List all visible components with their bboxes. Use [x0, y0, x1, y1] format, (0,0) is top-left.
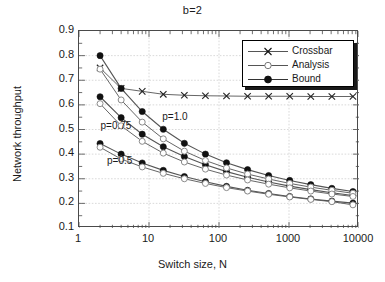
analysis-marker-icon: [247, 59, 289, 72]
y-tick-label: 0.4: [30, 147, 74, 158]
x-tick-label: 1: [75, 233, 81, 244]
figure-network-throughput: b=2 Network throughput Switch size, N 0.…: [0, 0, 385, 282]
x-tick-label: 1000: [276, 233, 300, 244]
legend-item-analysis: Analysis: [247, 58, 349, 72]
y-tick-label: 0.8: [30, 49, 74, 60]
x-tick-label: 100: [209, 233, 227, 244]
y-tick-label: 0.7: [30, 73, 74, 84]
x-tick-label: 10: [142, 233, 154, 244]
series-bound-p0.75: [97, 94, 356, 199]
legend-item-crossbar: Crossbar: [247, 44, 349, 58]
crossbar-marker-icon: [247, 45, 289, 58]
y-tick-label: 0.6: [30, 98, 74, 109]
legend-box: Crossbar Analysis Bound: [242, 40, 354, 87]
legend-label-crossbar: Crossbar: [289, 46, 333, 56]
annotation-p-1-0: p=1.0: [162, 112, 187, 122]
y-tick-label: 0.3: [30, 172, 74, 183]
y-tick-label: 0.2: [30, 196, 74, 207]
y-tick-label: 0.5: [30, 123, 74, 134]
y-tick-label: 0.1: [30, 221, 74, 232]
legend-label-bound: Bound: [289, 74, 321, 84]
legend-label-analysis: Analysis: [289, 60, 329, 70]
y-tick-label: 0.9: [30, 24, 74, 35]
legend-item-bound: Bound: [247, 72, 349, 86]
annotation-p-0-75: p=0.75: [101, 121, 132, 131]
annotation-p-0-5: p=0.5: [107, 156, 132, 166]
bound-marker-icon: [247, 73, 289, 86]
x-tick-label: 10000: [343, 233, 374, 244]
